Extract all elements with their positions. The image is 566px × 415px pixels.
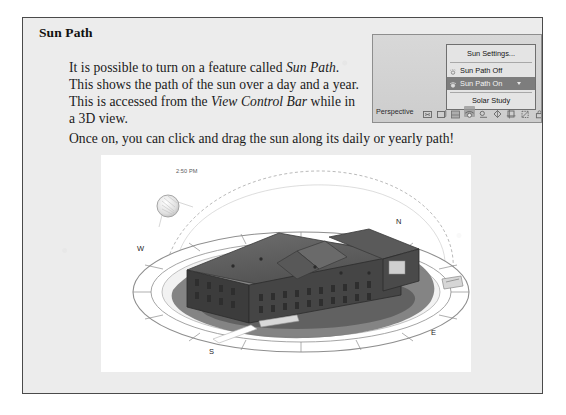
scale-icon[interactable] xyxy=(422,106,433,117)
menu-item-sun-path-off[interactable]: Sun Path Off xyxy=(447,64,535,77)
document-page-frame: Sun Path It is possible to turn on a fea… xyxy=(22,17,543,394)
menu-item-sun-settings-label: Sun Settings... xyxy=(467,49,515,58)
view-control-bar-perspective-label[interactable]: Perspective xyxy=(376,107,414,116)
para1-italic-view-control-bar: View Control Bar xyxy=(211,94,307,109)
view-control-bar[interactable]: Perspective xyxy=(373,104,541,118)
shadows-toggle-icon[interactable] xyxy=(478,106,489,117)
menu-item-sun-settings[interactable]: Sun Settings... xyxy=(447,47,535,60)
visual-style-icon[interactable] xyxy=(450,106,461,117)
sun-path-3d-view-figure: N W S E May 10 2:50 PM xyxy=(101,155,471,372)
page-root: Sun Path It is possible to turn on a fea… xyxy=(0,0,566,415)
compass-label-north: N xyxy=(396,217,401,226)
para1-text-1: It is possible to turn on a feature call… xyxy=(69,60,286,75)
view-control-bar-screenshot-inset: Sun Settings... Sun Path Off xyxy=(372,34,542,123)
para1-italic-sun-path: Sun Path xyxy=(286,60,336,75)
compass-label-east: E xyxy=(431,328,436,337)
compass-label-west: W xyxy=(137,244,144,253)
paragraph-drag-sun: Once on, you can click and drag the sun … xyxy=(69,130,499,147)
sun-path-on-icon xyxy=(449,80,457,88)
sun-path-scene xyxy=(101,155,471,372)
crop-view-icon[interactable] xyxy=(506,106,517,117)
menu-item-sun-path-off-label: Sun Path Off xyxy=(460,66,502,75)
menu-separator-top xyxy=(450,62,532,63)
sun-position-time-label[interactable]: 2:50 PM xyxy=(176,168,198,174)
detail-level-icon[interactable] xyxy=(436,106,447,117)
render-icon[interactable] xyxy=(492,106,503,117)
chevron-down-icon xyxy=(517,82,521,85)
menu-separator-bottom xyxy=(450,92,532,93)
paragraph-sun-path-intro: It is possible to turn on a feature call… xyxy=(69,59,359,128)
menu-item-sun-path-on-label: Sun Path On xyxy=(460,79,502,88)
sun-path-off-icon xyxy=(449,67,457,75)
compass-label-south: S xyxy=(209,347,214,356)
page-title: Sun Path xyxy=(39,25,93,41)
sun-marker xyxy=(157,195,193,227)
lock-3d-view-icon[interactable] xyxy=(534,106,542,117)
glazing-panel xyxy=(389,261,405,274)
menu-item-sun-path-on[interactable]: Sun Path On xyxy=(447,77,535,90)
sun-path-toggle-icon[interactable] xyxy=(464,106,475,117)
hide-crop-icon[interactable] xyxy=(520,106,531,117)
sun-path-context-menu[interactable]: Sun Settings... Sun Path Off xyxy=(446,44,536,110)
